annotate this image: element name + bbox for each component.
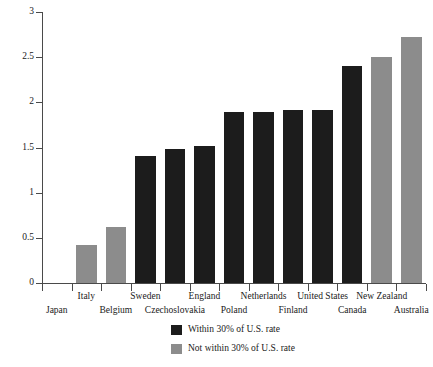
y-axis-tick-label: 0 bbox=[4, 278, 34, 288]
bar bbox=[165, 149, 186, 283]
bar bbox=[371, 57, 392, 283]
x-axis-tick bbox=[249, 284, 250, 291]
y-axis-tick-label: 3 bbox=[4, 7, 34, 17]
bars-layer bbox=[42, 12, 426, 283]
y-axis-tick-labels: 00.511.522.53 bbox=[0, 0, 34, 367]
legend-item: Not within 30% of U.S. rate bbox=[171, 341, 295, 356]
x-axis-tick bbox=[396, 284, 397, 291]
x-axis-label: New Zealand bbox=[356, 292, 407, 302]
bar bbox=[106, 227, 127, 283]
chart-legend: Within 30% of U.S. rateNot within 30% of… bbox=[171, 322, 295, 360]
x-axis-label: Italy bbox=[78, 292, 95, 302]
bar bbox=[194, 146, 215, 283]
x-axis-tick bbox=[131, 284, 132, 291]
x-axis-label: Netherlands bbox=[241, 292, 287, 302]
bar bbox=[135, 156, 156, 283]
x-axis-tick bbox=[367, 284, 368, 291]
bar bbox=[253, 112, 274, 283]
x-axis-label: Belgium bbox=[99, 306, 132, 316]
x-axis-label: Japan bbox=[46, 306, 68, 316]
bar bbox=[312, 110, 333, 283]
x-axis-tick bbox=[190, 284, 191, 291]
legend-swatch-within bbox=[171, 325, 182, 335]
legend-label: Within 30% of U.S. rate bbox=[188, 325, 280, 335]
y-axis-tick-label: 1.5 bbox=[4, 143, 34, 153]
y-axis-tick-label: 0.5 bbox=[4, 233, 34, 243]
y-axis-tick-label: 2.5 bbox=[4, 52, 34, 62]
legend-item: Within 30% of U.S. rate bbox=[171, 322, 295, 337]
bar bbox=[76, 245, 97, 283]
x-axis-label: Australia bbox=[394, 306, 429, 316]
x-axis-label: Sweden bbox=[130, 292, 160, 302]
bar-chart: 00.511.522.53 JapanItalyBelgiumSwedenCze… bbox=[0, 0, 433, 367]
x-axis-tick bbox=[101, 284, 102, 291]
x-axis-label: England bbox=[189, 292, 221, 302]
y-axis-tick-label: 2 bbox=[4, 97, 34, 107]
legend-label: Not within 30% of U.S. rate bbox=[188, 344, 295, 354]
x-axis-tick bbox=[160, 284, 161, 291]
x-axis-tick bbox=[426, 284, 427, 291]
bar bbox=[342, 66, 363, 283]
bar bbox=[224, 112, 245, 283]
x-axis-tick bbox=[278, 284, 279, 291]
x-axis-label: Finland bbox=[279, 306, 308, 316]
x-axis-tick bbox=[219, 284, 220, 291]
x-axis-label: Poland bbox=[221, 306, 247, 316]
x-axis-tick bbox=[308, 284, 309, 291]
x-axis-label: Canada bbox=[338, 306, 367, 316]
legend-swatch-not-within bbox=[171, 344, 182, 354]
x-axis-tick bbox=[42, 284, 43, 291]
x-axis-line bbox=[42, 283, 426, 284]
x-axis-label: United States bbox=[297, 292, 348, 302]
bar bbox=[283, 110, 304, 283]
bar bbox=[401, 37, 422, 283]
y-axis-tick-label: 1 bbox=[4, 188, 34, 198]
x-axis-tick bbox=[337, 284, 338, 291]
x-axis-tick bbox=[72, 284, 73, 291]
x-axis-label: Czechoslovakia bbox=[145, 306, 205, 316]
